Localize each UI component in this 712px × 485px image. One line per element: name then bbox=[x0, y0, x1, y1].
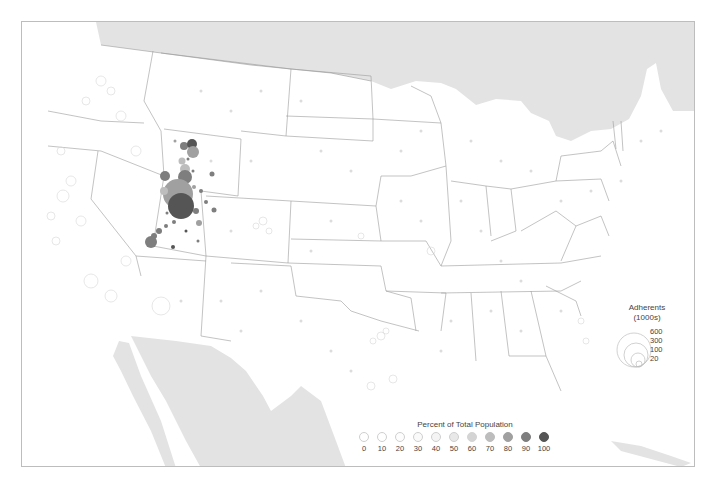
utah-cluster bbox=[145, 139, 217, 249]
legend-percent-item: 80 bbox=[499, 432, 517, 453]
canada-landmass bbox=[96, 22, 695, 141]
legend-percent-row: 0 10 20 30 40 50 60 70 80 90 100 bbox=[355, 432, 555, 453]
legend-percent-item: 10 bbox=[373, 432, 391, 453]
legend-percent-item: 100 bbox=[535, 432, 553, 453]
legend-size-circles bbox=[614, 323, 654, 371]
legend-percent-item: 70 bbox=[481, 432, 499, 453]
legend-swatch bbox=[539, 432, 549, 442]
legend-swatch bbox=[521, 432, 531, 442]
legend-size-subtitle: (1000s) bbox=[612, 313, 682, 323]
legend-swatch bbox=[359, 432, 369, 442]
map-canvas bbox=[22, 22, 695, 467]
cuba-island bbox=[611, 441, 691, 467]
legend-swatch bbox=[413, 432, 423, 442]
legend-percent-item: 0 bbox=[355, 432, 373, 453]
legend-percent-title: Percent of Total Population bbox=[375, 420, 555, 429]
map-frame bbox=[21, 21, 695, 467]
legend-swatch bbox=[395, 432, 405, 442]
legend-swatch bbox=[449, 432, 459, 442]
legend-percent-item: 50 bbox=[445, 432, 463, 453]
legend-swatch bbox=[485, 432, 495, 442]
legend-swatch bbox=[377, 432, 387, 442]
legend-percent-item: 30 bbox=[409, 432, 427, 453]
legend-size-labels: 600 300 100 20 bbox=[650, 327, 663, 363]
legend-percent-item: 40 bbox=[427, 432, 445, 453]
legend-percent-item: 90 bbox=[517, 432, 535, 453]
legend-percent-item: 60 bbox=[463, 432, 481, 453]
legend-swatch bbox=[503, 432, 513, 442]
legend-size: Adherents (1000s) 600 300 100 20 bbox=[612, 303, 682, 323]
legend-percent: Percent of Total Population 0 10 20 30 4… bbox=[355, 420, 555, 453]
legend-swatch bbox=[431, 432, 441, 442]
legend-swatch bbox=[467, 432, 477, 442]
legend-percent-item: 20 bbox=[391, 432, 409, 453]
legend-size-title: Adherents bbox=[612, 303, 682, 313]
